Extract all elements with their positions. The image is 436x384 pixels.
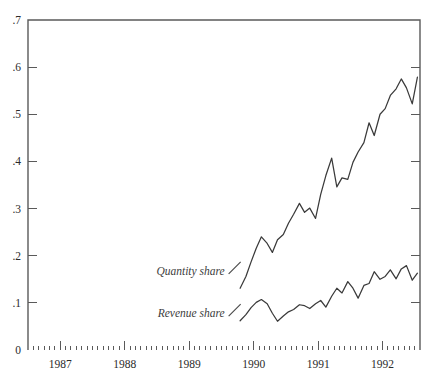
plot-frame [28,20,420,350]
x-tick-label-1990: 1990 [242,358,265,370]
x-tick-label-1992: 1992 [371,358,394,370]
x-tick-label-1991: 1991 [307,358,330,370]
x-tick-label-1989: 1989 [178,358,201,370]
y-tick-label-.2: .2 [12,250,21,262]
y-tick-label-0: 0 [15,344,21,356]
y-tick-label-.1: .1 [12,297,21,309]
y-tick-label-.3: .3 [12,203,21,215]
leader-line-quantity-share [229,262,241,274]
series-line-quantity-share [240,77,417,288]
leader-line-revenue-share [229,304,241,316]
chart-figure: 0.1.2.3.4.5.6.7 198719881989199019911992… [0,0,436,384]
y-axis-tick-labels: 0.1.2.3.4.5.6.7 [12,14,21,356]
y-tick-label-.5: .5 [12,108,21,120]
y-tick-label-.7: .7 [12,14,21,26]
series-annotations: Quantity shareRevenue share [156,262,240,319]
series-label-revenue-share: Revenue share [157,307,225,319]
series-lines [240,77,417,321]
axis-frame [28,20,420,350]
series-line-revenue-share [240,266,417,322]
series-label-quantity-share: Quantity share [156,265,224,278]
y-axis-ticks [28,67,37,303]
x-axis-ticks [33,341,414,350]
x-axis-tick-labels: 198719881989199019911992 [49,358,395,370]
x-tick-label-1988: 1988 [113,358,136,370]
chart-svg: 0.1.2.3.4.5.6.7 198719881989199019911992… [0,0,436,384]
x-tick-label-1987: 1987 [49,358,72,370]
y-tick-label-.6: .6 [12,61,21,73]
y-tick-label-.4: .4 [12,155,21,167]
